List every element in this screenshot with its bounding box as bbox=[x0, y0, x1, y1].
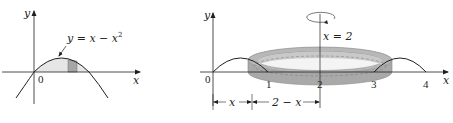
curve-equation-label: y = x − x2 bbox=[66, 31, 123, 45]
tick-label-1: 1 bbox=[266, 78, 272, 90]
right-figure: y x 0 1 2 3 4 x = 2 x 2 − x bbox=[200, 9, 450, 110]
rotation-arrow-icon bbox=[307, 12, 335, 22]
origin-label: 0 bbox=[38, 73, 44, 85]
dimension-label-x: x bbox=[229, 96, 236, 109]
label-pointer-arrow bbox=[59, 46, 66, 56]
y-axis-label: y bbox=[23, 7, 31, 20]
tick-label-4: 4 bbox=[423, 78, 429, 90]
x-axis-label: x bbox=[443, 74, 450, 87]
tick-label-3: 3 bbox=[371, 78, 377, 90]
shell-method-diagram: y x 0 y = x − x2 y x 0 1 bbox=[0, 0, 453, 123]
left-figure: y x 0 y = x − x2 bbox=[2, 7, 140, 104]
axis-of-rotation-label: x = 2 bbox=[323, 30, 352, 43]
dimension-label-2-minus-x: 2 − x bbox=[271, 96, 302, 109]
tick-label-2: 2 bbox=[317, 78, 323, 90]
tick-label-0: 0 bbox=[205, 73, 211, 85]
y-axis-label: y bbox=[203, 9, 211, 22]
x-axis-label: x bbox=[133, 74, 140, 87]
